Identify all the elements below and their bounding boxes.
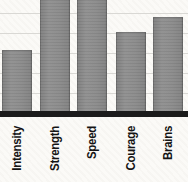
bar-chart: IntensityStrengthSpeedCourageBrains bbox=[0, 0, 188, 182]
axis-label-speed: Speed bbox=[85, 126, 99, 159]
axis-label-intensity: Intensity bbox=[10, 126, 24, 171]
axis-label-courage: Courage bbox=[124, 126, 138, 171]
x-axis-line bbox=[0, 111, 188, 117]
axis-label-strength: Strength bbox=[48, 126, 62, 171]
bar-courage bbox=[116, 32, 146, 112]
bar-strength bbox=[40, 0, 70, 112]
axis-label-brains: Brains bbox=[161, 126, 175, 160]
bar-speed bbox=[77, 0, 107, 112]
bar-brains bbox=[153, 17, 183, 112]
bar-intensity bbox=[2, 50, 32, 112]
